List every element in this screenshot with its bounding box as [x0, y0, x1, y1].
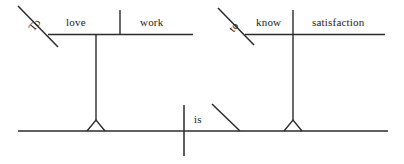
- right-pedestal-triangle: [284, 120, 302, 131]
- sentence-diagram: To love work to know satisfaction is: [0, 0, 404, 164]
- modifier-slant-line: [212, 104, 240, 131]
- label-know: know: [256, 17, 281, 28]
- label-love: love: [66, 17, 86, 28]
- label-work: work: [140, 17, 163, 28]
- left-pedestal-triangle: [87, 120, 105, 131]
- label-is: is: [194, 114, 202, 125]
- label-satisfaction: satisfaction: [312, 17, 365, 28]
